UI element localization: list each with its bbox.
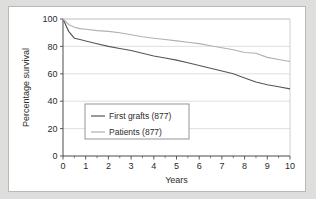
x-tick-label-6: 6 bbox=[197, 161, 202, 171]
chart-figure: 020406080100012345678910YearsPercentage … bbox=[8, 6, 306, 192]
y-tick-label-60: 60 bbox=[47, 69, 57, 79]
x-axis-title: Years bbox=[165, 175, 188, 185]
x-tick-label-9: 9 bbox=[265, 161, 270, 171]
series-line-0 bbox=[63, 19, 290, 89]
x-tick-label-8: 8 bbox=[242, 161, 247, 171]
x-tick-label-10: 10 bbox=[285, 161, 295, 171]
x-tick-label-1: 1 bbox=[83, 161, 88, 171]
x-tick-label-2: 2 bbox=[106, 161, 111, 171]
x-tick-label-3: 3 bbox=[129, 161, 134, 171]
survival-chart-svg: 020406080100012345678910YearsPercentage … bbox=[9, 7, 305, 191]
plot-area: 020406080100012345678910YearsPercentage … bbox=[9, 7, 305, 191]
series-line-1 bbox=[63, 19, 290, 61]
legend-label-1: Patients (877) bbox=[109, 127, 162, 137]
x-tick-label-5: 5 bbox=[174, 161, 179, 171]
y-axis-title: Percentage survival bbox=[21, 48, 31, 127]
x-tick-label-0: 0 bbox=[60, 161, 65, 171]
y-tick-label-0: 0 bbox=[52, 151, 57, 161]
y-tick-label-100: 100 bbox=[42, 14, 57, 24]
y-tick-label-40: 40 bbox=[47, 96, 57, 106]
y-tick-label-80: 80 bbox=[47, 42, 57, 52]
x-tick-label-7: 7 bbox=[219, 161, 224, 171]
legend-label-0: First grafts (877) bbox=[109, 111, 172, 121]
x-tick-label-4: 4 bbox=[151, 161, 156, 171]
y-tick-label-20: 20 bbox=[47, 124, 57, 134]
